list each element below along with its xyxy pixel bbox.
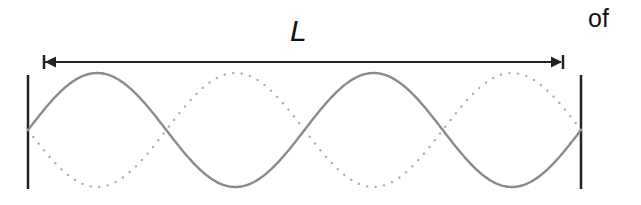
standing-wave-diagram [0, 0, 641, 205]
length-arrow [44, 55, 563, 69]
solid-wave [28, 73, 581, 187]
trailing-text: of [588, 4, 609, 33]
length-label: L [290, 14, 307, 48]
